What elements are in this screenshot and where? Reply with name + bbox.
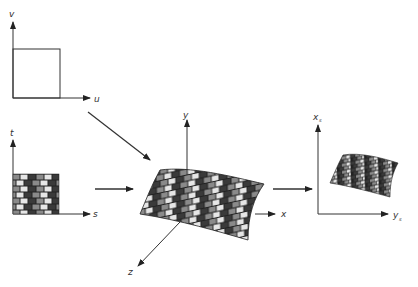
x-axis-label: x: [280, 209, 287, 219]
y-axis-label: y: [182, 110, 189, 120]
textured-curved-surface: [140, 169, 264, 240]
texture-mapping-diagram: v u t s y x z x s y s: [0, 0, 418, 287]
parameter-space-panel: v u: [9, 9, 100, 104]
param-to-object-arrow: [88, 112, 150, 160]
z-axis-label: z: [127, 267, 133, 277]
brick-texture: [13, 174, 59, 214]
v-axis-label: v: [9, 9, 15, 19]
object-space-panel: y x z: [127, 110, 287, 277]
xs-axis-label: x: [312, 112, 319, 122]
unit-square: [13, 49, 60, 98]
z-axis: [138, 222, 180, 266]
texture-space-panel: t s: [10, 128, 98, 219]
u-axis-label: u: [94, 94, 100, 104]
ys-axis-label: y: [392, 210, 399, 220]
xs-axis-subscript: s: [319, 117, 322, 123]
screen-space-panel: x s y s: [312, 112, 402, 222]
diagram-canvas: v u t s y x z x s y s: [0, 0, 418, 287]
s-axis-label: s: [93, 209, 98, 219]
t-axis-label: t: [10, 128, 14, 138]
ys-axis-subscript: s: [399, 216, 402, 222]
projected-textured-surface: [330, 154, 398, 197]
